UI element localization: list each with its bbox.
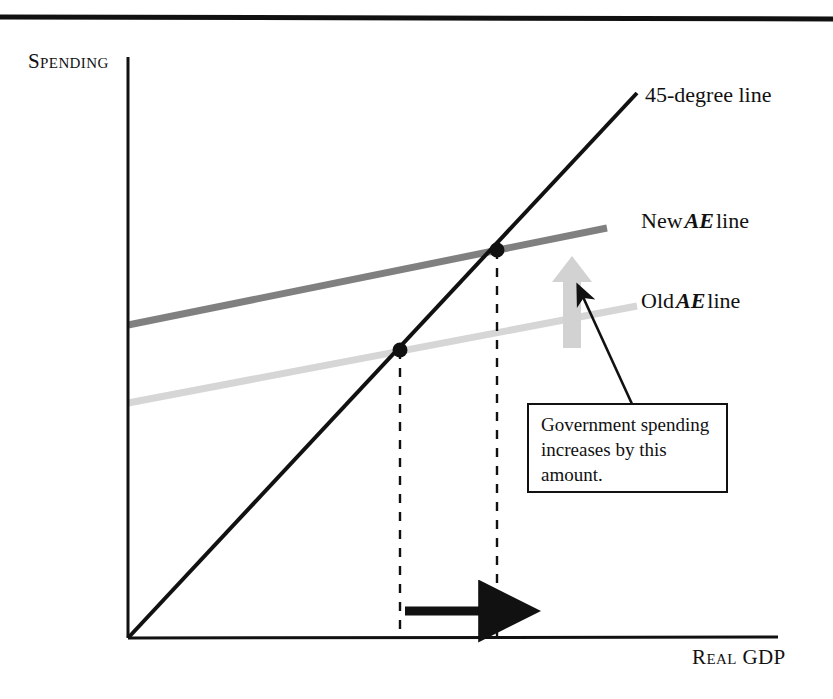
y-axis-title: Spending: [28, 49, 109, 74]
callout-line-2: increases by this: [541, 437, 721, 462]
callout-line-1: Government spending: [541, 412, 721, 437]
callout-pointer: [578, 286, 632, 404]
new-ae-label-emphasis: AE: [683, 208, 716, 233]
callout-text: Government spending increases by this am…: [541, 412, 721, 487]
callout-line-3: amount.: [541, 462, 721, 487]
old-ae-label-suffix: line: [707, 288, 740, 313]
old-ae-label-prefix: Old: [641, 288, 674, 313]
new-ae-line-label: NewAEline: [641, 208, 749, 234]
old-ae-line-label: OldAEline: [641, 288, 740, 314]
new-ae-label-suffix: line: [716, 208, 749, 233]
new-equilibrium-point: [490, 243, 505, 258]
old-ae-label-emphasis: AE: [674, 288, 707, 313]
new-ae-label-prefix: New: [641, 208, 683, 233]
top-rule: [0, 17, 833, 19]
x-axis-title: Real GDP: [692, 645, 786, 670]
forty-five-degree-line-label: 45-degree line: [645, 82, 771, 108]
old-equilibrium-point: [393, 343, 408, 358]
new-ae-line: [128, 228, 607, 325]
x-axis: [128, 637, 778, 638]
old-ae-line: [128, 306, 637, 403]
figure-canvas: Spending Real GDP 45-degree line NewAEli…: [0, 0, 833, 699]
forty-five-degree-line: [128, 93, 637, 638]
